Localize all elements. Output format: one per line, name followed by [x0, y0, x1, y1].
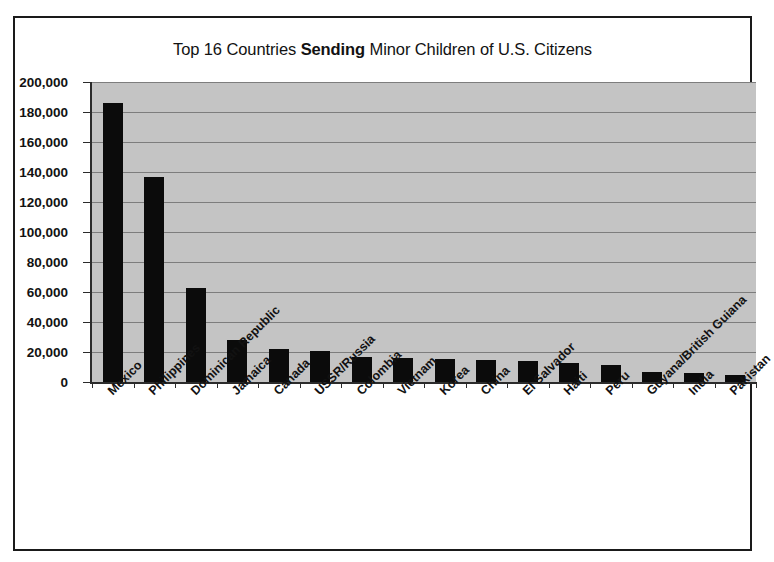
y-axis-tick-label: 200,000 — [0, 75, 68, 90]
y-axis-tick-label: 140,000 — [0, 165, 68, 180]
y-axis-tick-label: 20,000 — [0, 345, 68, 360]
bar — [186, 288, 206, 383]
chart-title-part-after: Minor Children of U.S. Citizens — [365, 40, 592, 58]
y-axis-tick-label: 120,000 — [0, 195, 68, 210]
gridline — [92, 232, 756, 233]
gridline — [92, 202, 756, 203]
y-axis-tick-label: 160,000 — [0, 135, 68, 150]
gridline — [92, 262, 756, 263]
x-axis-tick-mark — [756, 382, 757, 388]
x-axis-labels: MexicoPhilippinesDominican RepublicJamai… — [90, 384, 754, 544]
bar — [103, 103, 123, 382]
chart-frame: Top 16 Countries Sending Minor Children … — [13, 16, 752, 551]
y-axis-tick-mark — [83, 322, 90, 323]
y-axis-tick-mark — [83, 172, 90, 173]
y-axis-tick-label: 40,000 — [0, 315, 68, 330]
gridline — [92, 142, 756, 143]
y-axis-tick-label: 180,000 — [0, 105, 68, 120]
y-axis-tick-label: 60,000 — [0, 285, 68, 300]
plot-area — [90, 82, 756, 384]
y-axis-tick-mark — [83, 142, 90, 143]
gridline — [92, 172, 756, 173]
chart-title: Top 16 Countries Sending Minor Children … — [15, 40, 750, 59]
y-axis-tick-label: 100,000 — [0, 225, 68, 240]
bar — [144, 177, 164, 383]
y-axis-tick-mark — [83, 112, 90, 113]
chart-title-emphasis: Sending — [301, 40, 365, 58]
chart-title-part-before: Top 16 Countries — [173, 40, 301, 58]
y-axis-tick-label: 80,000 — [0, 255, 68, 270]
y-axis-tick-mark — [83, 292, 90, 293]
y-axis-tick-label: 0 — [0, 375, 68, 390]
y-axis-tick-mark — [83, 82, 90, 83]
y-axis-tick-mark — [83, 262, 90, 263]
y-axis-tick-mark — [83, 382, 90, 383]
y-axis-tick-mark — [83, 202, 90, 203]
gridline — [92, 112, 756, 113]
y-axis-tick-mark — [83, 232, 90, 233]
y-axis-tick-mark — [83, 352, 90, 353]
gridline — [92, 82, 756, 83]
